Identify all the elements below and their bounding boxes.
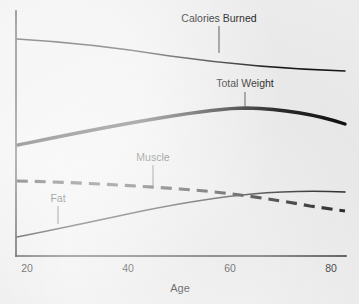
series-line-fat xyxy=(17,191,345,237)
line-chart: Calories Burned Total Weight Muscle Fat … xyxy=(0,0,359,304)
x-tick-label-60: 60 xyxy=(224,262,236,274)
x-tick-label-20: 20 xyxy=(21,262,33,274)
series-line-calories-burned xyxy=(17,39,345,71)
series-line-total-weight xyxy=(18,108,345,145)
x-tick-label-80: 80 xyxy=(325,262,337,274)
series-label-muscle: Muscle xyxy=(136,151,169,163)
x-axis-title: Age xyxy=(170,282,190,294)
series-label-fat: Fat xyxy=(50,192,65,204)
x-tick-label-40: 40 xyxy=(122,262,134,274)
series-label-calories-burned: Calories Burned xyxy=(181,12,256,24)
series-line-muscle xyxy=(17,181,345,211)
series-label-total-weight: Total Weight xyxy=(216,77,274,89)
figure-canvas: Calories Burned Total Weight Muscle Fat … xyxy=(0,0,359,304)
